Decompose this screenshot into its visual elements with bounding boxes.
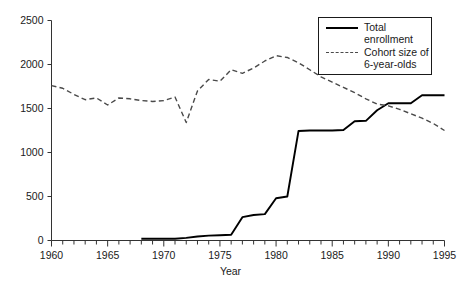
x-tick-label: 1965: [78, 250, 138, 261]
x-axis-title: Year: [0, 266, 461, 277]
y-tick-label: 0: [0, 235, 44, 246]
legend-label-total-enrollment: Total enrollment: [364, 21, 413, 45]
y-tick-label: 2000: [0, 59, 44, 70]
x-tick-label: 1995: [415, 250, 461, 261]
x-tick-label: 1960: [22, 250, 82, 261]
y-tick-label: 2500: [0, 15, 44, 26]
legend-item-total-enrollment: Total enrollment: [319, 22, 431, 48]
legend-swatch-solid-line: [326, 27, 358, 29]
x-tick-label: 1975: [190, 250, 250, 261]
chart-legend: Total enrollment Cohort size of 6-year-o…: [318, 17, 432, 75]
x-tick-label: 1985: [302, 250, 362, 261]
x-tick-label: 1990: [358, 250, 418, 261]
legend-item-cohort-size: Cohort size of 6-year-olds: [319, 47, 431, 73]
chart-figure: 05001000150020002500 1960196519701975198…: [0, 0, 461, 284]
data-series: [52, 56, 445, 239]
x-tick-label: 1980: [246, 250, 306, 261]
legend-label-cohort-size: Cohort size of 6-year-olds: [364, 46, 429, 70]
legend-swatch-dashed-line: [326, 52, 358, 53]
x-tick-label: 1970: [134, 250, 194, 261]
y-tick-label: 1500: [0, 103, 44, 114]
y-tick-label: 1000: [0, 147, 44, 158]
series-line-0: [141, 95, 444, 238]
y-tick-label: 500: [0, 191, 44, 202]
